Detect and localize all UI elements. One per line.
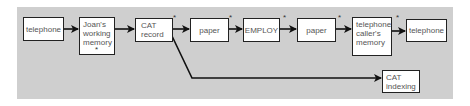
node-label: paper [199,26,219,35]
node-telephone-source: telephone [23,17,64,41]
star-marker: * [396,14,399,22]
star-marker: * [229,14,232,22]
node-label-line: indexing [386,82,416,91]
star-marker: * [283,14,286,22]
node-cat-indexing: CAT indexing [382,70,420,93]
node-label-line: memory [356,38,388,47]
node-label-line: record [141,30,169,39]
node-label: telephone [409,26,444,35]
node-label-line: telephone [356,20,388,29]
star-marker: * [173,14,176,22]
node-paper-2: paper [297,18,336,42]
node-employ: EMPLOY [243,18,280,42]
node-label: paper [306,26,326,35]
node-label-line: caller's [356,29,388,38]
star-marker: * [338,14,341,22]
node-label-line: CAT [141,21,169,30]
node-telephone-destination: telephone [406,19,447,42]
node-label-line: CAT [386,73,416,82]
star-marker: * [95,46,98,54]
node-cat-record: CAT record [135,18,173,42]
node-telephone-callers-memory: telephone caller's memory [352,17,392,56]
node-label-line: working [83,29,111,38]
node-paper-1: paper [190,18,229,42]
node-label-line: Joan's [83,20,111,29]
node-label: telephone [26,25,61,34]
node-label: EMPLOY [245,26,278,35]
